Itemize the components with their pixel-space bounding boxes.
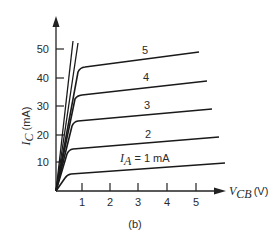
curve-ia-4 — [56, 81, 207, 191]
curve-labels: 5 4 3 2 IA = 1 mA — [119, 44, 170, 168]
y-axis-title-sub: C — [22, 132, 36, 141]
y-tick-label: 50 — [37, 43, 49, 55]
y-axis-title-unit: (mA) — [20, 107, 32, 131]
x-axis-arrow-icon — [214, 188, 226, 195]
y-ticks: 10 20 30 40 50 — [37, 43, 64, 168]
y-tick-label: 40 — [37, 72, 49, 84]
y-axis-arrow-icon — [53, 16, 60, 27]
svg-text:VCB(V): VCB(V) — [229, 184, 268, 201]
x-axis-title: VCB(V) — [229, 184, 268, 201]
x-ticks: 1 2 3 4 5 — [79, 183, 199, 208]
x-tick-label: 1 — [79, 196, 85, 208]
x-axis-title-unit: (V) — [254, 185, 269, 197]
y-tick-label: 20 — [37, 129, 49, 141]
x-tick-label: 4 — [164, 196, 170, 208]
y-tick-label: 10 — [37, 156, 49, 168]
steep-lines — [56, 41, 78, 191]
chart: 10 20 30 40 50 1 2 3 4 5 VCB(V) IC(mA) — [0, 0, 277, 235]
curve-label-4: 4 — [143, 71, 149, 83]
x-tick-label: 3 — [135, 196, 141, 208]
x-tick-label: 2 — [107, 196, 113, 208]
curve-label-2: 2 — [145, 128, 151, 140]
curve-label-3: 3 — [144, 99, 150, 111]
y-axis-title: IC(mA) — [19, 107, 36, 147]
curves — [56, 52, 225, 191]
y-tick-label: 30 — [37, 100, 49, 112]
figure-caption: (b) — [128, 218, 141, 230]
curve-ia-2 — [56, 137, 219, 191]
curve-ia-3 — [56, 109, 212, 191]
svg-text:IC(mA): IC(mA) — [19, 107, 36, 147]
curve-label-1: IA = 1 mA — [119, 151, 170, 168]
curve-label-5: 5 — [142, 44, 148, 56]
curve-ia-1 — [56, 163, 225, 191]
x-axis-title-sub: CB — [236, 187, 252, 201]
x-tick-label: 5 — [193, 196, 199, 208]
